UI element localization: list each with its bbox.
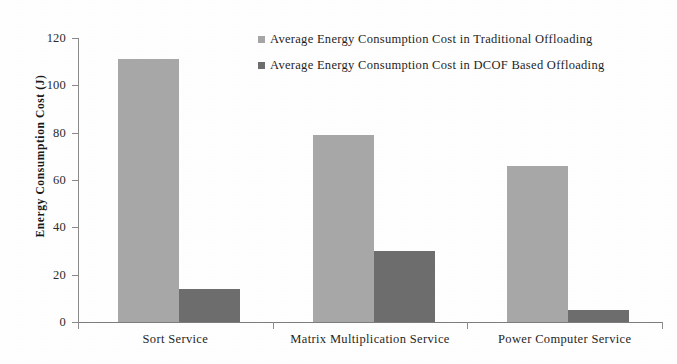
x-axis-category-labels: Sort ServiceMatrix Multiplication Servic…: [78, 331, 662, 347]
bar: [118, 59, 179, 322]
x-axis-tick-mark: [662, 322, 663, 329]
bar: [374, 251, 435, 322]
square-marker-dark-icon: [258, 62, 265, 69]
x-axis-category-label: Sort Service: [78, 331, 273, 347]
legend-entry: Average Energy Consumption Cost in DCOF …: [258, 52, 670, 78]
x-axis-line: [78, 322, 662, 323]
legend-label: Average Energy Consumption Cost in DCOF …: [270, 58, 604, 72]
bar: [179, 289, 240, 322]
x-axis-category-label: Power Computer Service: [467, 331, 662, 347]
bar-group: [273, 38, 468, 322]
bar-group: [78, 38, 273, 322]
legend-entry: Average Energy Consumption Cost in Tradi…: [258, 26, 670, 52]
x-axis-tick-mark: [273, 322, 274, 329]
x-axis-tick-mark: [78, 322, 79, 329]
x-axis-category-label: Matrix Multiplication Service: [273, 331, 468, 347]
y-axis-tick-label: 60: [0, 174, 66, 186]
bar-groups: [78, 38, 662, 322]
y-axis-tick-label: 0: [0, 316, 66, 328]
y-axis-tick-label: 80: [0, 127, 66, 139]
bar-group: [467, 38, 662, 322]
y-axis-tick-label: 40: [0, 221, 66, 233]
y-axis-tick-label: 120: [0, 32, 66, 44]
bar: [313, 135, 374, 322]
chart-legend: Average Energy Consumption Cost in Tradi…: [258, 26, 670, 78]
square-marker-light-icon: [258, 36, 265, 43]
bar-chart: Energy Consumption Cost (J) 120100806040…: [0, 0, 677, 364]
bar: [507, 166, 568, 322]
legend-label: Average Energy Consumption Cost in Tradi…: [270, 32, 593, 46]
bar: [568, 310, 629, 322]
x-axis-tick-mark: [467, 322, 468, 329]
y-axis-tick-label: 100: [0, 79, 66, 91]
y-axis-tick-label: 20: [0, 269, 66, 281]
